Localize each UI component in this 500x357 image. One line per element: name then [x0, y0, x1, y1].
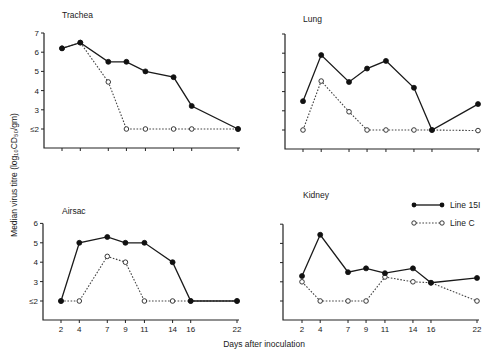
data-point — [59, 299, 64, 304]
panel-kidney: 247911141622Kidney — [280, 190, 482, 334]
series-line-c — [303, 81, 478, 131]
x-tick-label: 14 — [168, 325, 177, 334]
panel-trachea: ≤234567Trachea — [30, 10, 240, 151]
data-point — [123, 240, 128, 245]
x-tick-label: 2 — [59, 325, 64, 334]
x-tick-label: 9 — [364, 325, 369, 334]
x-tick-label: 7 — [346, 325, 351, 334]
data-point — [189, 103, 194, 108]
data-point — [429, 128, 434, 133]
data-point — [123, 260, 128, 265]
y-tick-label: 7 — [35, 29, 40, 38]
figure-canvas: ≤234567TracheaLung≤23456247911141622Airs… — [0, 0, 500, 357]
panel-airsac: ≤23456247911141622Airsac — [29, 206, 242, 334]
data-point — [124, 59, 129, 64]
y-tick-label: 5 — [35, 67, 40, 76]
x-tick-label: 2 — [300, 325, 305, 334]
data-point — [384, 128, 389, 133]
data-point — [411, 85, 416, 90]
x-tick-label: 11 — [140, 325, 149, 334]
data-point — [171, 75, 176, 80]
y-tick-label: 5 — [34, 239, 39, 248]
data-point — [318, 299, 323, 304]
data-point — [364, 299, 369, 304]
data-point — [476, 102, 481, 107]
axes — [44, 33, 240, 148]
y-tick-label: ≤2 — [30, 125, 39, 134]
series-line-c — [61, 256, 237, 301]
series-line-15i — [302, 235, 477, 283]
data-point — [77, 299, 82, 304]
data-point — [170, 260, 175, 265]
data-point — [142, 299, 147, 304]
data-point — [301, 128, 306, 133]
data-point — [105, 234, 110, 239]
data-point — [301, 99, 306, 104]
data-point — [347, 109, 352, 114]
x-tick-label: 4 — [77, 325, 82, 334]
panel-title: Lung — [303, 14, 322, 24]
panel-title: Trachea — [62, 10, 93, 20]
data-point — [142, 240, 147, 245]
data-point — [476, 128, 481, 133]
x-tick-label: 7 — [105, 325, 110, 334]
data-point — [189, 127, 194, 132]
series-line-15i — [62, 43, 238, 129]
data-point — [105, 254, 110, 259]
data-point — [318, 232, 323, 237]
data-point — [382, 271, 387, 276]
data-point — [106, 59, 111, 64]
data-point — [143, 127, 148, 132]
data-point — [428, 280, 433, 285]
data-point — [364, 266, 369, 271]
x-tick-label: 16 — [427, 325, 436, 334]
data-point — [171, 127, 176, 132]
data-point — [124, 127, 129, 132]
data-point — [170, 299, 175, 304]
axes — [285, 34, 480, 149]
data-point — [300, 280, 305, 285]
x-tick-label: 16 — [186, 325, 195, 334]
x-tick-label: 9 — [123, 325, 128, 334]
data-point — [475, 275, 480, 280]
data-point — [346, 270, 351, 275]
data-point — [365, 66, 370, 71]
panel-lung: Lung — [282, 14, 481, 152]
data-point — [78, 40, 83, 45]
panel-title: Kidney — [303, 190, 330, 200]
data-point — [143, 69, 148, 74]
y-tick-label: 4 — [35, 87, 40, 96]
data-point — [60, 46, 65, 51]
data-point — [106, 80, 111, 85]
y-tick-label: 3 — [35, 106, 40, 115]
x-tick-label: 14 — [408, 325, 417, 334]
data-point — [412, 128, 417, 133]
data-point — [319, 79, 324, 84]
data-point — [188, 299, 193, 304]
data-point — [319, 53, 324, 58]
panel-title: Airsac — [62, 206, 86, 216]
data-point — [475, 299, 480, 304]
x-tick-label: 4 — [318, 325, 323, 334]
data-point — [383, 58, 388, 63]
data-point — [411, 280, 416, 285]
x-tick-label: 22 — [473, 325, 482, 334]
data-point — [347, 80, 352, 85]
series-line-15i — [61, 237, 237, 301]
data-point — [365, 128, 370, 133]
data-point — [236, 127, 241, 132]
y-tick-label: ≤2 — [29, 297, 38, 306]
data-point — [346, 299, 351, 304]
x-tick-label: 11 — [381, 325, 390, 334]
y-tick-label: 6 — [35, 48, 40, 57]
data-point — [77, 240, 82, 245]
data-point — [235, 299, 240, 304]
y-tick-label: 4 — [34, 258, 39, 267]
data-point — [300, 274, 305, 279]
data-point — [410, 266, 415, 271]
axes — [43, 223, 239, 320]
y-tick-label: 3 — [34, 278, 39, 287]
series-line-15i — [303, 55, 478, 130]
y-tick-label: 6 — [34, 219, 39, 228]
x-tick-label: 22 — [233, 325, 242, 334]
